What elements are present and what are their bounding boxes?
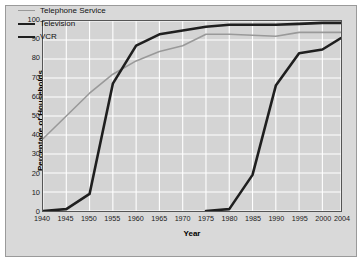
x-tick-label: 2000 [315,215,331,222]
x-tick-label: 1965 [151,215,167,222]
chart-figure: Percentage of Households 010203040506070… [0,0,362,262]
legend-item-label: Television [40,20,75,28]
legend-item-label: Telephone Service [40,7,106,15]
y-tick-label: 40 [4,131,40,139]
legend-item[interactable]: Telephone Service [18,5,106,16]
legend-line-icon [18,23,35,25]
x-tick-label: 1975 [198,215,214,222]
y-tick-label: 70 [4,74,40,82]
x-tick-label: 1955 [104,215,120,222]
x-tick-label: 1995 [292,215,308,222]
y-tick-label: 60 [4,93,40,101]
x-axis-tick-labels: 1940194519501955196019651970197519801985… [42,215,342,227]
series-lines [43,21,341,211]
x-tick-label: 1940 [34,215,50,222]
legend-item-label: VCR [40,33,57,41]
x-tick-label: 1950 [81,215,97,222]
y-axis-tick-labels: 0102030405060708090100 [0,20,40,212]
x-tick-label: 1980 [222,215,238,222]
y-tick-label: 10 [4,189,40,197]
y-tick-label: 80 [4,55,40,63]
y-tick-label: 30 [4,151,40,159]
x-tick-label: 1945 [57,215,73,222]
legend-line-icon [18,36,35,38]
legend-line-icon [18,10,35,11]
chart-legend: Telephone ServiceTelevisionVCR [18,5,106,42]
x-tick-label: 1970 [175,215,191,222]
plot-area [42,20,342,212]
y-tick-label: 20 [4,170,40,178]
x-tick-label: 1960 [128,215,144,222]
legend-item[interactable]: Television [18,18,106,29]
x-axis-title: Year [42,229,342,238]
x-tick-label: 1985 [245,215,261,222]
y-tick-label: 50 [4,112,40,120]
x-tick-label: 1990 [268,215,284,222]
legend-item[interactable]: VCR [18,31,106,42]
x-tick-label: 2004 [334,215,350,222]
